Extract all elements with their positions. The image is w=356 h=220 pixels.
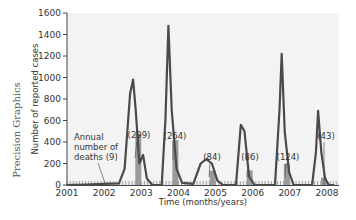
credit-label: Precision Graphics — [11, 82, 22, 178]
y-tick-label: 1200 — [38, 51, 61, 61]
annotation-text: (264) — [164, 131, 187, 141]
chart: 02004006008001000120014001600 2001200220… — [0, 0, 356, 220]
y-axis-title: Number of reported cases — [30, 43, 40, 155]
x-tick-label: 2008 — [316, 188, 339, 198]
y-ticks: 02004006008001000120014001600 — [38, 8, 67, 190]
y-tick-label: 800 — [44, 94, 61, 104]
x-tick-label: 2001 — [56, 188, 79, 198]
y-tick-label: 400 — [44, 137, 61, 147]
annotation-text: number of — [74, 142, 119, 152]
y-tick-label: 1600 — [38, 8, 61, 18]
annotation-text: (299) — [128, 130, 151, 140]
annotation-text: Annual — [74, 132, 104, 142]
x-tick-label: 2002 — [93, 188, 116, 198]
annotation-text: (84) — [203, 152, 220, 162]
annotation-text: (43) — [317, 131, 334, 141]
annotation-text: (124) — [277, 152, 300, 162]
annotation-text: (86) — [241, 152, 258, 162]
y-tick-label: 200 — [44, 159, 61, 169]
y-tick-label: 1400 — [38, 30, 61, 40]
annotation-text: deaths (9) — [74, 152, 118, 162]
y-tick-label: 1000 — [38, 73, 61, 83]
x-tick-label: 2007 — [278, 188, 301, 198]
y-tick-label: 600 — [44, 116, 61, 126]
x-tick-label: 2003 — [130, 188, 153, 198]
x-axis-title: Time (months/years) — [158, 197, 247, 207]
